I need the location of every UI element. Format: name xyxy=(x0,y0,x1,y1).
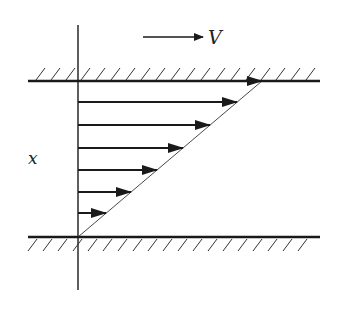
velocity-arrows xyxy=(78,81,262,213)
wall-velocity-indicator: V xyxy=(143,26,224,48)
bottom-fixed-wall xyxy=(28,237,320,251)
couette-flow-diagram: V x xyxy=(0,0,347,311)
axis-label-x: x xyxy=(28,148,38,168)
top-moving-wall xyxy=(28,68,320,81)
velocity-label: V xyxy=(208,26,224,48)
